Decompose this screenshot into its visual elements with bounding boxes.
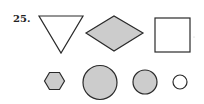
- inverted-triangle: [39, 16, 83, 53]
- gray-diamond: [86, 16, 143, 51]
- small-white-circle: [173, 75, 187, 89]
- white-square: [155, 18, 190, 52]
- medium-gray-circle: [133, 70, 157, 94]
- gray-hexagon: [45, 73, 65, 90]
- large-gray-circle: [83, 66, 117, 100]
- dot-mark: [194, 37, 195, 38]
- shapes-diagram: [0, 0, 204, 104]
